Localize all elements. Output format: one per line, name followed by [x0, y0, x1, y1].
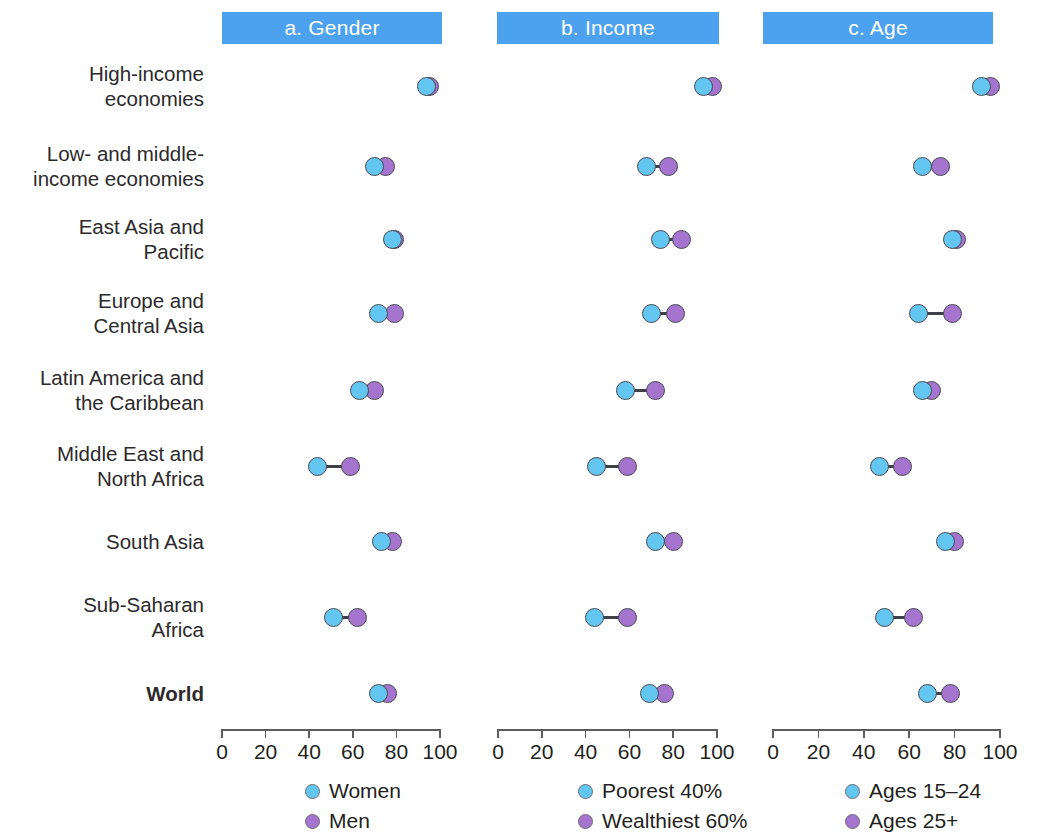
axis-tick [541, 729, 543, 738]
legend-item: Men [305, 809, 370, 833]
data-point-wealthiest-60 [618, 457, 637, 476]
axis-tick [396, 729, 398, 738]
axis-line [222, 729, 440, 731]
data-point-poorest-40 [616, 381, 635, 400]
data-point-women [350, 381, 369, 400]
axis-tick-label: 0 [216, 740, 228, 764]
axis-tick [716, 729, 718, 738]
axis-tick [908, 729, 910, 738]
category-label: South Asia [106, 529, 204, 554]
data-point-wealthiest-60 [659, 157, 678, 176]
axis-tick-label: 80 [385, 740, 408, 764]
data-point-women [324, 608, 343, 627]
legend-item: Ages 15–24 [845, 779, 981, 803]
axis-tick-label: 20 [254, 740, 277, 764]
data-point-ages-25 [941, 684, 960, 703]
axis-tick [818, 729, 820, 738]
category-label: High-income economies [89, 61, 204, 111]
category-label: Europe and Central Asia [93, 288, 204, 338]
axis-tick-label: 20 [530, 740, 553, 764]
axis-tick [352, 729, 354, 738]
data-point-poorest-40 [651, 230, 670, 249]
legend-swatch-purple-icon [305, 814, 320, 829]
dumbbell-chart-figure: a. Gender b. Income c. Age High-income e… [0, 0, 1037, 836]
axis-tick-label: 100 [422, 740, 457, 764]
data-point-wealthiest-60 [666, 304, 685, 323]
data-point-ages-25 [904, 608, 923, 627]
data-point-women [417, 77, 436, 96]
data-point-wealthiest-60 [672, 230, 691, 249]
panel-header-age: c. Age [763, 12, 993, 44]
axis-tick-label: 20 [807, 740, 830, 764]
legend-item: Ages 25+ [845, 809, 958, 833]
data-point-wealthiest-60 [664, 532, 683, 551]
data-point-poorest-40 [585, 608, 604, 627]
legend-swatch-blue-icon [578, 784, 593, 799]
data-point-ages-15-24 [936, 532, 955, 551]
category-label-column: High-income economiesLow- and middle- in… [0, 0, 212, 836]
axis-tick [265, 729, 267, 738]
axis-tick-label: 0 [492, 740, 504, 764]
axis-tick-label: 100 [982, 740, 1017, 764]
category-label: Low- and middle- income economies [33, 141, 204, 191]
data-point-women [308, 457, 327, 476]
axis-tick [954, 729, 956, 738]
axis-tick [999, 729, 1001, 738]
data-point-poorest-40 [646, 532, 665, 551]
legend-item: Poorest 40% [578, 779, 722, 803]
axis-line [773, 729, 1000, 731]
data-point-ages-15-24 [972, 77, 991, 96]
data-point-ages-15-24 [875, 608, 894, 627]
axis-tick [585, 729, 587, 738]
data-point-poorest-40 [640, 684, 659, 703]
axis-line [498, 729, 717, 731]
legend-label: Women [329, 779, 401, 803]
axis-tick-label: 60 [618, 740, 641, 764]
legend-item: Women [305, 779, 401, 803]
data-point-ages-25 [931, 157, 950, 176]
panel-header-gender: a. Gender [222, 12, 442, 44]
legend-label: Ages 15–24 [869, 779, 981, 803]
category-label: Sub-Saharan Africa [83, 592, 204, 642]
axis-tick [308, 729, 310, 738]
axis-tick-label: 60 [341, 740, 364, 764]
axis-tick-label: 40 [298, 740, 321, 764]
data-point-ages-15-24 [913, 157, 932, 176]
axis-tick-label: 100 [699, 740, 734, 764]
data-point-women [365, 157, 384, 176]
legend-label: Men [329, 809, 370, 833]
data-point-women [383, 230, 402, 249]
category-label: Latin America and the Caribbean [40, 365, 204, 415]
data-point-men [341, 457, 360, 476]
axis-tick [221, 729, 223, 738]
axis-tick-label: 80 [943, 740, 966, 764]
axis-tick-label: 40 [574, 740, 597, 764]
axis-tick-label: 40 [852, 740, 875, 764]
axis-tick [772, 729, 774, 738]
data-point-women [372, 532, 391, 551]
data-point-ages-15-24 [918, 684, 937, 703]
data-point-poorest-40 [587, 457, 606, 476]
category-label: East Asia and Pacific [79, 214, 204, 264]
legend-label: Ages 25+ [869, 809, 958, 833]
axis-tick [629, 729, 631, 738]
data-point-poorest-40 [694, 77, 713, 96]
panel-header-income: b. Income [497, 12, 719, 44]
data-point-ages-15-24 [909, 304, 928, 323]
legend-swatch-purple-icon [845, 814, 860, 829]
data-point-ages-15-24 [913, 381, 932, 400]
data-point-ages-25 [893, 457, 912, 476]
legend-item: Wealthiest 60% [578, 809, 748, 833]
data-point-poorest-40 [637, 157, 656, 176]
data-point-women [369, 684, 388, 703]
legend-label: Poorest 40% [602, 779, 722, 803]
legend-swatch-blue-icon [845, 784, 860, 799]
legend-label: Wealthiest 60% [602, 809, 748, 833]
data-point-wealthiest-60 [646, 381, 665, 400]
data-point-ages-25 [943, 304, 962, 323]
axis-tick-label: 0 [767, 740, 779, 764]
data-point-wealthiest-60 [618, 608, 637, 627]
legend-swatch-blue-icon [305, 784, 320, 799]
data-point-poorest-40 [642, 304, 661, 323]
axis-tick [863, 729, 865, 738]
